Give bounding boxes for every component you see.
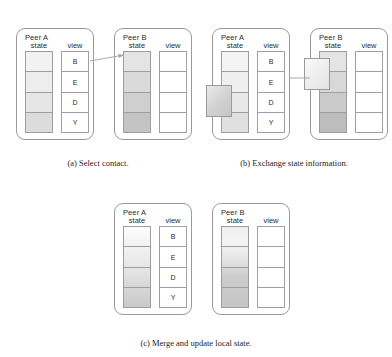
state-cell	[222, 227, 248, 247]
panel-b-exchange-connector	[196, 14, 392, 180]
caption-b: (b) Exchange state information.	[196, 158, 392, 168]
protocol-figure: Peer A state view B E D Y Peer B state v…	[0, 0, 392, 357]
panel-b: Peer A state view B E D Y Peer B state v…	[196, 14, 392, 180]
view-cell: B	[160, 227, 186, 247]
state-cell	[124, 268, 150, 288]
state-cell	[124, 247, 150, 268]
view-cell	[258, 227, 284, 247]
view-cell	[258, 288, 284, 307]
view-cell: E	[160, 247, 186, 268]
state-cell	[124, 288, 150, 307]
panel-c-peer-b-view-header: view	[256, 216, 286, 225]
view-cell	[258, 268, 284, 288]
caption-c: (c) Merge and update local state.	[96, 338, 296, 348]
panel-c: Peer A state view B E D Y Peer B state v…	[98, 195, 298, 357]
view-cell: Y	[160, 288, 186, 307]
panel-c-peer-a-state-column	[123, 226, 151, 308]
state-cell	[222, 288, 248, 307]
panel-c-peer-a-state-header: state	[122, 216, 152, 225]
panel-c-peer-a-view-header: view	[158, 216, 188, 225]
panel-c-peer-a-view-column: B E D Y	[159, 226, 187, 308]
panel-c-peer-b-view-column	[257, 226, 285, 308]
panel-a-contact-arrow	[0, 14, 196, 180]
state-cell	[222, 247, 248, 268]
panel-c-peer-b-state-header: state	[220, 216, 250, 225]
view-cell	[258, 247, 284, 268]
panel-c-peer-b-state-column	[221, 226, 249, 308]
view-cell: D	[160, 268, 186, 288]
panel-a: Peer A state view B E D Y Peer B state v…	[0, 14, 196, 180]
state-cell	[124, 227, 150, 247]
state-cell	[222, 268, 248, 288]
caption-a: (a) Select contact.	[0, 158, 196, 168]
